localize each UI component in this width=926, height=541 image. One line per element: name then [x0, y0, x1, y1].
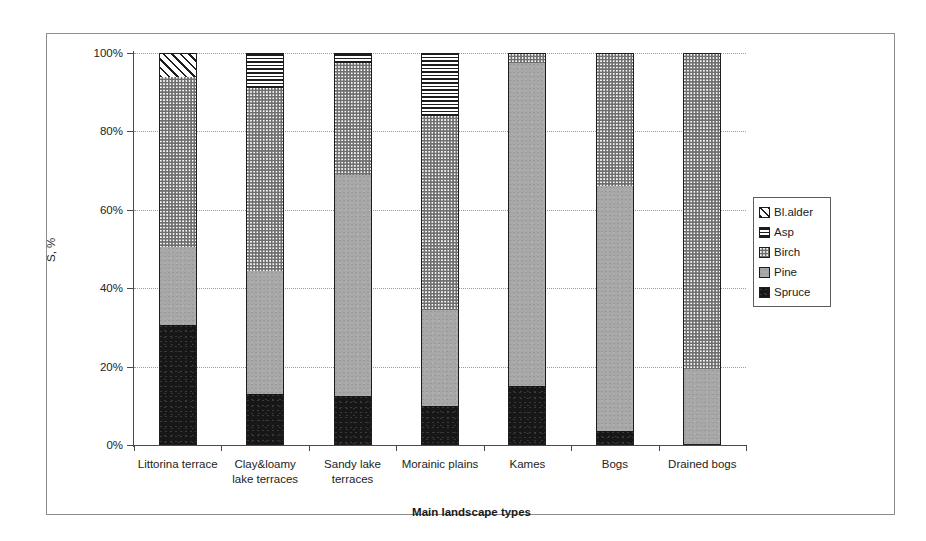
x-tick-mark [571, 445, 572, 451]
x-tick-label-line: terraces [295, 472, 411, 487]
bar-segment-pine[interactable] [334, 175, 372, 396]
x-tick-mark [309, 445, 310, 451]
bar-stack [508, 53, 546, 445]
bar-segment-pine[interactable] [421, 310, 459, 406]
x-tick-mark [746, 445, 747, 451]
x-tick-mark [659, 445, 660, 451]
plot-area [134, 53, 746, 445]
chart-legend: Bl.alderAspBirchPineSpruce [753, 197, 831, 307]
y-tick-label-group: 0%20%40%60%80%100% [57, 53, 123, 445]
y-tick-label: 20% [67, 361, 123, 373]
bar-segment-birch[interactable] [508, 53, 546, 63]
legend-swatch-icon [759, 247, 770, 258]
legend-swatch-icon [759, 207, 770, 218]
legend-item[interactable]: Spruce [759, 282, 826, 302]
bar-segment-pine[interactable] [246, 271, 284, 394]
bar-segment-spruce[interactable] [508, 386, 546, 445]
bar-segment-spruce[interactable] [159, 325, 197, 445]
legend-item-label: Spruce [774, 286, 810, 298]
y-tick-label: 100% [67, 47, 123, 59]
legend-item[interactable]: Pine [759, 262, 826, 282]
legend-item[interactable]: Bl.alder [759, 202, 826, 222]
y-tick-label: 60% [67, 204, 123, 216]
y-tick-label: 40% [67, 282, 123, 294]
bar-stack [246, 53, 284, 445]
y-tick-mark [127, 53, 134, 54]
bar-stack [596, 53, 634, 445]
bar-stack [159, 53, 197, 445]
legend-swatch-icon [759, 287, 770, 298]
bar-segment-birch[interactable] [246, 88, 284, 270]
y-axis-title: S, % [45, 238, 57, 262]
bar-stack [421, 53, 459, 445]
bar-segment-birch[interactable] [683, 53, 721, 369]
bar-stack [683, 53, 721, 445]
y-tick-mark [127, 131, 134, 132]
bar-segment-birch[interactable] [596, 53, 634, 186]
legend-item-label: Birch [774, 246, 800, 258]
bar-segment-pine[interactable] [159, 247, 197, 325]
y-tick-mark [127, 288, 134, 289]
legend-item[interactable]: Asp [759, 222, 826, 242]
legend-item-label: Asp [774, 226, 794, 238]
bar-segment-asp[interactable] [334, 53, 372, 63]
y-tick-mark [127, 445, 134, 446]
bar-segment-spruce[interactable] [334, 396, 372, 445]
legend-item-label: Bl.alder [774, 206, 813, 218]
legend-item[interactable]: Birch [759, 242, 826, 262]
bar-segment-pine[interactable] [508, 63, 546, 386]
bar-segment-birch[interactable] [334, 63, 372, 175]
bar-segment-spruce[interactable] [421, 406, 459, 445]
x-tick-mark [396, 445, 397, 451]
bar-segment-spruce[interactable] [246, 394, 284, 445]
y-tick-label: 80% [67, 125, 123, 137]
plot-wrapper: S, % 0%20%40%60%80%100% Littorina terrac… [47, 34, 896, 516]
x-tick-mark [221, 445, 222, 451]
y-tick-mark [127, 210, 134, 211]
bar-segment-asp[interactable] [246, 53, 284, 88]
x-tick-mark [134, 445, 135, 451]
x-tick-label-line: Drained bogs [644, 457, 760, 472]
bar-segment-birch[interactable] [159, 77, 197, 248]
bar-stack [334, 53, 372, 445]
legend-swatch-icon [759, 267, 770, 278]
bar-segment-pine[interactable] [683, 369, 721, 445]
bar-segment-birch[interactable] [421, 116, 459, 310]
y-tick-label: 0% [67, 439, 123, 451]
x-tick-mark [484, 445, 485, 451]
x-axis-title: Main landscape types [47, 506, 896, 518]
x-tick-label: Drained bogs [644, 457, 760, 472]
y-tick-mark [127, 367, 134, 368]
bar-segment-asp[interactable] [421, 53, 459, 116]
legend-item-label: Pine [774, 266, 797, 278]
legend-swatch-icon [759, 227, 770, 238]
bar-segment-pine[interactable] [596, 186, 634, 431]
x-axis-line [133, 445, 747, 446]
bar-segment-blalder[interactable] [159, 53, 197, 77]
bar-segment-spruce[interactable] [596, 431, 634, 445]
figure-frame: S, % 0%20%40%60%80%100% Littorina terrac… [46, 33, 895, 515]
